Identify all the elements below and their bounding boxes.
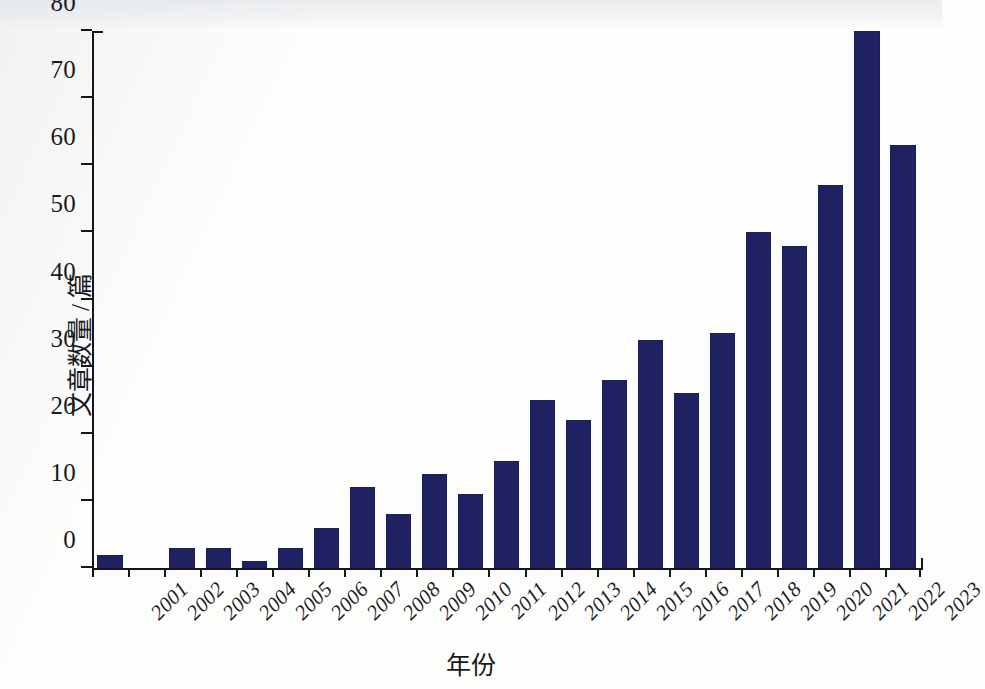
x-axis-tick [885,568,887,577]
y-axis-tick [81,230,92,232]
x-axis-tick [272,568,274,577]
y-axis-tick [81,566,92,568]
x-axis-tick [777,568,779,577]
bar [818,185,843,568]
x-axis-tick [164,568,166,577]
bar [746,232,771,568]
x-axis-tick [128,568,130,577]
bar [314,528,339,568]
x-axis-tick-label: 2023 [939,577,985,625]
bar [602,380,627,568]
y-axis-tick-label: 0 [63,526,76,554]
bar [710,333,735,568]
y-axis-tick-label: 50 [51,190,76,218]
x-axis-tick [849,568,851,577]
bar [566,420,591,568]
y-axis-tick-label: 30 [51,325,76,353]
x-axis-title: 年份 [0,645,942,681]
x-axis-tick [525,568,527,577]
x-axis-tick [741,568,743,577]
bar [386,514,411,568]
bar [278,548,303,568]
x-axis-tick [813,568,815,577]
y-axis-tick-label: 20 [51,392,76,420]
y-axis-tick [81,298,92,300]
x-axis-tick-label: 2011 [506,577,553,624]
bar [169,548,194,568]
x-axis-tick [919,568,921,577]
plot-area: 01020304050607080 [92,31,921,568]
x-axis-tick [633,568,635,577]
y-axis-tick [81,29,92,31]
y-axis-tick-label: 60 [51,123,76,151]
x-axis-tick [488,568,490,577]
y-axis-tick-label: 80 [51,0,76,17]
x-axis-tick [380,568,382,577]
y-axis-tick-label: 70 [51,56,76,84]
y-axis-tick [81,96,92,98]
x-axis-tick [705,568,707,577]
x-axis-tick [236,568,238,577]
bar [674,393,699,568]
x-axis-tick [561,568,563,577]
y-axis-tick [81,432,92,434]
x-axis-tick [200,568,202,577]
x-axis-tick [308,568,310,577]
bar [350,487,375,568]
y-axis-tick [81,365,92,367]
x-axis-tick [344,568,346,577]
bar [97,555,122,568]
bar [890,145,915,568]
bar [638,340,663,568]
bar [422,474,447,568]
y-axis-tick [81,163,92,165]
x-axis-line [92,568,923,570]
bar [782,246,807,568]
y-axis-tick-label: 40 [51,258,76,286]
x-axis-tick [452,568,454,577]
x-axis-tick [669,568,671,577]
bar [206,548,231,568]
x-axis-tick [416,568,418,577]
bar [458,494,483,568]
x-axis-tick [597,568,599,577]
bar [494,461,519,568]
x-axis-right-cap [921,558,923,570]
y-axis-tick [81,499,92,501]
bar [242,561,267,568]
x-axis-tick [92,568,94,577]
y-axis-tick-label: 10 [51,459,76,487]
bar [530,400,555,568]
bar [854,31,879,568]
